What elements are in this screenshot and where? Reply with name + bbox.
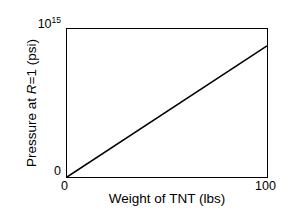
plot-frame bbox=[66, 28, 268, 178]
y-axis-tick-top: 1015 bbox=[38, 17, 61, 31]
series-line-svg bbox=[67, 29, 267, 177]
data-series-polyline bbox=[67, 46, 267, 177]
y-axis-tick-top-mantissa: 10 bbox=[38, 17, 52, 31]
y-axis-tick-bottom: 0 bbox=[54, 164, 61, 178]
plot-area bbox=[67, 29, 267, 177]
x-axis-label: Weight of TNT (lbs) bbox=[66, 191, 268, 207]
y-axis-tick-top-exponent: 15 bbox=[52, 15, 61, 25]
chart-figure: Pressure at R=1 (psi) 1015 0 0 100 Weigh… bbox=[0, 0, 290, 216]
y-axis-label-italic-symbol: R bbox=[24, 84, 39, 94]
y-axis-label-post: =1 (psi) bbox=[24, 39, 39, 84]
y-axis-label-pre: Pressure at bbox=[24, 94, 39, 167]
y-axis-label: Pressure at R=1 (psi) bbox=[20, 28, 44, 178]
